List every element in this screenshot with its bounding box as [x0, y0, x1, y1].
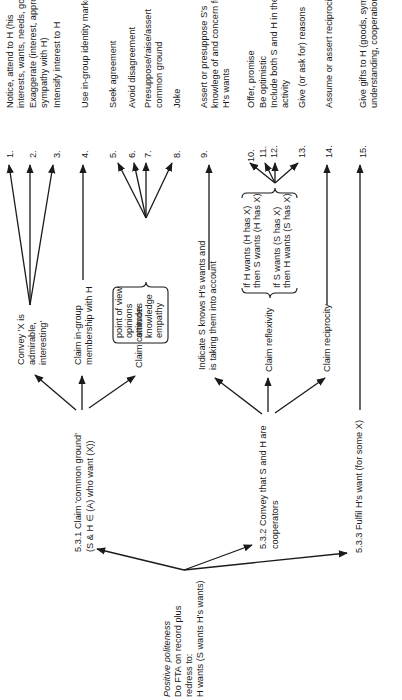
strategy-label: Assume or assert reciprocity: [324, 0, 334, 108]
strategy-label: Use in-group identity markers: [80, 0, 90, 108]
branch-arrows: [35, 375, 325, 414]
strategy-number: 4.: [80, 150, 90, 158]
root-node: Positive politeness Do FTA on record plu…: [162, 580, 205, 697]
strategy-number: 12.: [269, 145, 279, 158]
strategy-label: Intensify interest to H: [52, 22, 62, 108]
node-label: Indicate S knows H's wants and: [197, 241, 207, 370]
strategy-number: 8.: [172, 150, 182, 158]
strategy-label: activity: [280, 80, 290, 108]
brace-item: If H wants (H has X): [242, 206, 252, 288]
strategy-13: 13. Give (or ask for) reasons: [297, 6, 307, 158]
branch-5-3-2-children: Indicate S knows H's wants and is taking…: [197, 188, 332, 372]
strategy-number: 9.: [199, 150, 209, 158]
node-label: membership with H: [84, 286, 94, 365]
strategy-number: 1.: [5, 150, 15, 158]
strategy-label: common ground: [154, 42, 164, 108]
branch-5-3-1-children: Convey 'X is admirable, interesting' Cla…: [16, 282, 168, 368]
strategy-arrows: [9, 163, 360, 410]
node-label: Claim reciprocity: [322, 304, 332, 372]
brace-item: knowledge: [144, 294, 154, 338]
brace-item: opinions: [124, 303, 134, 338]
branch-label: 5.3.2 Convey that S and H are: [258, 425, 268, 549]
root-arrows: [97, 545, 347, 570]
brace-item: empathy: [154, 302, 164, 338]
strategy-label: Notice, attend to H (his: [5, 14, 15, 108]
strategy-number: 5.: [108, 150, 118, 158]
branch-label: cooperators: [270, 500, 280, 549]
strategy-label: Exaggerate (interest, approval,: [28, 0, 38, 108]
node-label: is taking them into account: [208, 261, 218, 370]
strategy-label: knowlege of and concern for: [210, 0, 220, 108]
strategy-number: 10.: [246, 149, 256, 162]
strategy-list: 1. Notice, attend to H (his interests, w…: [5, 0, 379, 162]
strategy-number: 3.: [52, 150, 62, 158]
strategy-4: 4. Use in-group identity markers: [80, 0, 90, 158]
branch-5-3-2: 5.3.2 Convey that S and H are cooperator…: [258, 425, 280, 549]
brace-item: point of view: [114, 287, 124, 338]
strategy-number: 15.: [358, 145, 368, 158]
root-label: Do FTA on record plus: [173, 605, 183, 697]
strategy-label: Seek agreement: [108, 40, 118, 108]
node-label: Convey 'X is: [16, 314, 26, 365]
strategy-label: Presuppose/raise/assert: [143, 8, 153, 108]
strategy-label: H's wants: [221, 68, 231, 108]
branch-5-3-3: 5.3.3 Fulfil H's want (for some X): [354, 420, 364, 553]
claim-reciprocity-node: Claim reciprocity: [322, 304, 332, 372]
node-label: interesting': [38, 321, 48, 365]
strategy-label: Include both S and H in the: [269, 0, 279, 108]
politeness-diagram: 1. Notice, attend to H (his interests, w…: [0, 0, 402, 700]
branch-5-3-1: 5.3.1 Claim 'common ground' (S & H ∈ (A)…: [73, 433, 95, 552]
strategy-8: 8. Joke: [172, 89, 182, 158]
node-label: admirable,: [27, 322, 37, 365]
strategy-number: 13.: [297, 145, 307, 158]
strategy-5: 5. Seek agreement: [108, 40, 118, 158]
strategy-label: Give gifts to H (goods, sympathy,: [358, 0, 368, 108]
brace-item: then H wants (S has X): [282, 194, 292, 288]
branch-label: (S & H ∈ (A) who want (X)): [85, 440, 95, 552]
node-label: Claim in-group: [73, 305, 83, 365]
brace-icon: [242, 288, 297, 298]
strategy-label: Offer, promise: [246, 50, 256, 108]
convey-admirable-node: Convey 'X is admirable, interesting': [16, 314, 48, 365]
node-label: Claim reflexivity: [264, 307, 274, 372]
strategy-9: 9. Assert or presuppose S's knowlege of …: [199, 0, 231, 158]
strategy-label: Joke: [172, 89, 182, 108]
strategy-label: Be optimistic: [258, 56, 268, 108]
strategy-3: 3. Intensify interest to H: [52, 22, 62, 158]
brace-item: then S wants (H has X): [252, 194, 262, 288]
indicate-s-knows-node: Indicate S knows H's wants and is taking…: [197, 241, 218, 370]
strategy-number: 7.: [143, 150, 153, 158]
strategy-10: 10. Offer, promise: [246, 50, 256, 162]
strategy-2: 2. Exaggerate (interest, approval, sympa…: [28, 0, 49, 158]
strategy-15: 15. Give gifts to H (goods, sympathy, un…: [358, 0, 379, 158]
claim-in-group-node: Claim in-group membership with H: [73, 286, 94, 365]
strategy-1: 1. Notice, attend to H (his interests, w…: [5, 0, 26, 158]
root-label: redress to:: [184, 654, 194, 697]
strategy-label: Assert or presuppose S's: [199, 5, 209, 108]
branch-label: 5.3.1 Claim 'common ground': [73, 433, 83, 552]
strategy-label: understanding, cooperation): [369, 0, 379, 108]
strategy-number: 2.: [28, 150, 38, 158]
root-title: Positive politeness: [162, 621, 172, 697]
strategy-6: 6. Avoid disagreement: [127, 27, 137, 158]
strategy-label: sympathy with H): [39, 38, 49, 108]
strategy-11: 11. Be optimistic: [258, 56, 268, 158]
brace-item: If S wants (S has X): [272, 207, 282, 288]
claim-common-node: Claim common point of view opinions atti…: [113, 282, 168, 368]
strategy-14: 14. Assume or assert reciprocity: [324, 0, 334, 158]
strategy-12: 12. Include both S and H in the activity: [269, 0, 290, 158]
diagram-svg: 1. Notice, attend to H (his interests, w…: [0, 0, 402, 700]
brace-item: attitudes: [134, 303, 144, 338]
strategy-label: Give (or ask for) reasons: [297, 6, 307, 108]
strategy-number: 11.: [258, 146, 268, 158]
strategy-label: interests, wants, needs, goods): [16, 0, 26, 108]
claim-reflexivity-node: Claim reflexivity If H wants (H has X) t…: [242, 188, 297, 372]
strategy-number: 14.: [324, 145, 334, 158]
strategy-number: 6.: [127, 150, 137, 158]
strategy-7: 7. Presuppose/raise/assert common ground: [143, 8, 164, 158]
branch-label: 5.3.3 Fulfil H's want (for some X): [354, 420, 364, 553]
root-label: H wants (S wants H's wants): [195, 580, 205, 697]
strategy-label: Avoid disagreement: [127, 27, 137, 108]
